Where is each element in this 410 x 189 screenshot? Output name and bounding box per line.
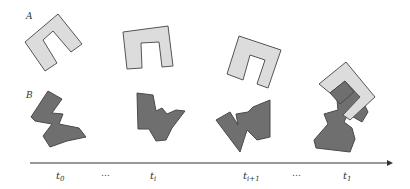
object-label-a: A xyxy=(25,11,33,21)
object-a-ti xyxy=(123,26,173,69)
object-b-ti xyxy=(137,93,185,141)
time-axis-arrowhead xyxy=(387,160,393,166)
object-label-b: B xyxy=(25,90,33,100)
tick-ti: ti xyxy=(150,170,156,183)
tick-t0: t0 xyxy=(56,170,65,183)
object-a-t0 xyxy=(25,14,82,71)
motion-diagram: A B t0 … ti ti+1 … t1 xyxy=(0,0,410,189)
tick-t1: t1 xyxy=(343,170,352,183)
tick-ellipsis-2: … xyxy=(292,168,301,178)
tick-ti1: ti+1 xyxy=(243,170,260,183)
object-a-ti1 xyxy=(227,36,281,88)
tick-ellipsis-1: … xyxy=(101,168,110,178)
object-b-t0 xyxy=(31,91,86,147)
object-b-ti1 xyxy=(216,100,270,152)
